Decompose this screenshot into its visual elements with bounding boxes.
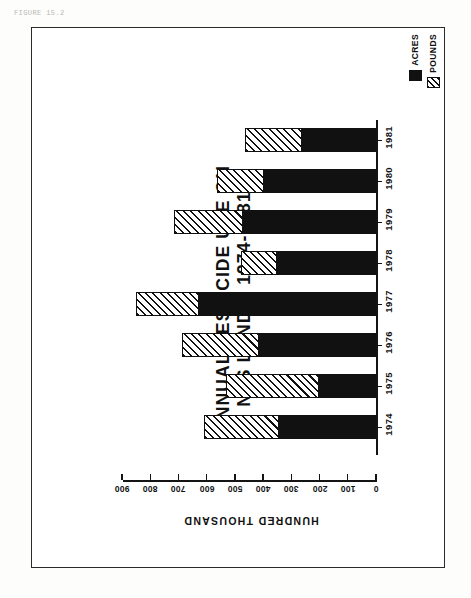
bar-segment-acres bbox=[259, 333, 376, 357]
value-tick bbox=[262, 474, 263, 480]
bar-1975 bbox=[226, 374, 376, 398]
bar-segment-acres bbox=[319, 374, 376, 398]
category-tick bbox=[376, 263, 382, 264]
category-tick bbox=[376, 181, 382, 182]
bar-segment-pounds bbox=[204, 415, 278, 439]
bar-segment-pounds bbox=[136, 292, 199, 316]
bar-1979 bbox=[174, 210, 376, 234]
category-label-1974: 1974 bbox=[384, 413, 394, 436]
value-axis-title: HUNDRED THOUSAND bbox=[131, 515, 371, 527]
bar-segment-acres bbox=[243, 210, 376, 234]
bar-segment-pounds bbox=[174, 210, 242, 234]
value-tick bbox=[319, 474, 320, 480]
bar-segment-pounds bbox=[182, 333, 258, 357]
category-tick bbox=[376, 304, 382, 305]
bar-segment-pounds bbox=[226, 374, 318, 398]
value-tick-label: 900 bbox=[109, 484, 135, 494]
value-axis-line bbox=[123, 480, 377, 482]
value-tick bbox=[234, 474, 235, 480]
category-axis-line bbox=[376, 120, 378, 455]
value-tick-label: 400 bbox=[250, 484, 276, 494]
bar-segment-pounds bbox=[241, 251, 276, 275]
value-tick-label: 100 bbox=[335, 484, 361, 494]
bar-1980 bbox=[217, 169, 376, 193]
category-label-1980: 1980 bbox=[384, 167, 394, 190]
value-tick bbox=[178, 474, 179, 480]
value-tick-label: 600 bbox=[194, 484, 220, 494]
value-tick bbox=[121, 474, 122, 480]
bar-1976 bbox=[182, 333, 376, 357]
value-tick-label: 0 bbox=[363, 484, 389, 494]
bar-1978 bbox=[241, 251, 376, 275]
figure-caption: FIGURE 15.2 bbox=[14, 9, 65, 17]
chart-stage: ACRES POUNDS ANNUAL PESTICIDE USE ON NFS… bbox=[32, 28, 446, 569]
value-tick-label: 500 bbox=[222, 484, 248, 494]
value-tick-label: 300 bbox=[278, 484, 304, 494]
bar-1974 bbox=[204, 415, 376, 439]
bar-segment-acres bbox=[277, 251, 376, 275]
category-label-1977: 1977 bbox=[384, 290, 394, 313]
figure-page: FIGURE 15.2 ACRES POUNDS ANNUAL PESTICID… bbox=[0, 0, 471, 598]
category-label-1979: 1979 bbox=[384, 208, 394, 231]
bar-segment-acres bbox=[302, 128, 376, 152]
value-tick bbox=[347, 474, 348, 480]
category-tick bbox=[376, 386, 382, 387]
bar-segment-acres bbox=[199, 292, 376, 316]
value-tick-label: 800 bbox=[137, 484, 163, 494]
value-tick bbox=[291, 474, 292, 480]
value-tick bbox=[206, 474, 207, 480]
value-tick-label: 200 bbox=[307, 484, 333, 494]
bar-segment-pounds bbox=[245, 128, 302, 152]
bar-segment-pounds bbox=[217, 169, 264, 193]
value-tick-label: 700 bbox=[165, 484, 191, 494]
category-tick bbox=[376, 140, 382, 141]
category-label-1981: 1981 bbox=[384, 126, 394, 149]
category-label-1978: 1978 bbox=[384, 249, 394, 272]
bar-segment-acres bbox=[279, 415, 376, 439]
category-label-1976: 1976 bbox=[384, 331, 394, 354]
bar-1977 bbox=[136, 292, 376, 316]
category-tick bbox=[376, 427, 382, 428]
bar-1981 bbox=[245, 128, 376, 152]
bar-segment-acres bbox=[264, 169, 376, 193]
plot-area: 9008007006005004003002001000 HUNDRED THO… bbox=[32, 28, 446, 569]
category-tick bbox=[376, 345, 382, 346]
figure-frame: ACRES POUNDS ANNUAL PESTICIDE USE ON NFS… bbox=[31, 27, 445, 568]
category-label-1975: 1975 bbox=[384, 372, 394, 395]
category-tick bbox=[376, 222, 382, 223]
value-tick bbox=[375, 474, 376, 480]
value-tick bbox=[150, 474, 151, 480]
